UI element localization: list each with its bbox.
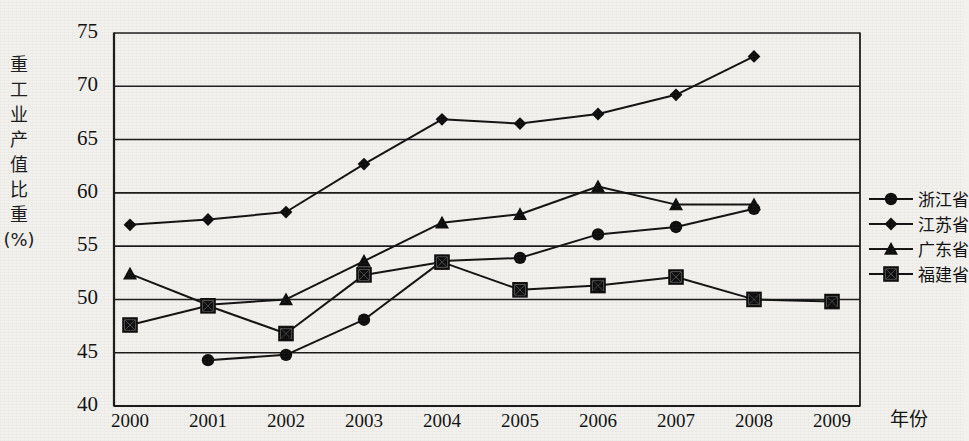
data-point-triangle-icon: [591, 179, 605, 192]
data-point-circle-icon: [592, 228, 604, 240]
data-point-diamond-icon: [202, 213, 215, 226]
legend: 浙江省 江苏省 广东省 福建省: [868, 186, 964, 286]
y-tick-label: 60: [52, 179, 98, 204]
y-tick-label: 55: [52, 232, 98, 257]
data-point-triangle-icon: [357, 254, 371, 267]
y-tick-label: 65: [52, 126, 98, 151]
x-tick-label: 2003: [329, 410, 399, 432]
x-tick-label: 2007: [641, 410, 711, 432]
y-tick-label: 70: [52, 72, 98, 97]
legend-item-jiangsu: 江苏省: [868, 211, 964, 236]
data-point-diamond-icon: [436, 113, 449, 126]
legend-marker-crossed-square-icon: [868, 264, 914, 284]
data-point-diamond-icon: [748, 50, 761, 63]
data-point-crossed-square-icon: [825, 295, 838, 308]
y-tick-label: 50: [52, 285, 98, 310]
y-tick-label: 40: [52, 392, 98, 417]
legend-label: 江苏省: [914, 211, 969, 236]
legend-marker-diamond-icon: [868, 214, 914, 234]
data-point-crossed-square-icon: [201, 299, 214, 312]
y-tick-label: 45: [52, 339, 98, 364]
x-tick-label: 2001: [173, 410, 243, 432]
data-point-crossed-square-icon: [513, 283, 526, 296]
x-tick-label: 2000: [95, 410, 165, 432]
legend-marker-circle-icon: [868, 189, 914, 209]
legend-item-fujian: 福建省: [868, 261, 964, 286]
data-point-circle-icon: [202, 354, 214, 366]
data-point-crossed-square-icon: [591, 279, 604, 292]
legend-item-guangdong: 广东省: [868, 236, 964, 261]
x-axis-title: 年份: [890, 404, 928, 431]
series-3: [123, 179, 761, 310]
data-point-circle-icon: [670, 221, 682, 233]
series-line: [130, 56, 754, 224]
data-point-crossed-square-icon: [884, 267, 897, 280]
data-point-circle-icon: [885, 192, 897, 204]
data-point-diamond-icon: [885, 217, 898, 230]
data-point-crossed-square-icon: [669, 270, 682, 283]
series-line: [130, 262, 832, 333]
data-point-triangle-icon: [513, 207, 527, 220]
series-4: [123, 256, 838, 341]
data-point-crossed-square-icon: [123, 318, 136, 331]
legend-label: 广东省: [914, 236, 969, 261]
x-tick-label: 2002: [251, 410, 321, 432]
x-tick-label: 2005: [485, 410, 555, 432]
data-point-crossed-square-icon: [357, 268, 370, 281]
data-point-circle-icon: [358, 313, 370, 325]
legend-marker-triangle-icon: [868, 239, 914, 259]
legend-label: 浙江省: [914, 186, 969, 211]
x-tick-label: 2004: [407, 410, 477, 432]
data-point-triangle-icon: [123, 267, 137, 280]
data-point-diamond-icon: [280, 206, 293, 219]
data-point-circle-icon: [514, 252, 526, 264]
data-point-diamond-icon: [670, 88, 683, 101]
x-tick-label: 2006: [563, 410, 633, 432]
x-tick-label: 2009: [797, 410, 867, 432]
data-point-crossed-square-icon: [747, 293, 760, 306]
data-point-diamond-icon: [592, 108, 605, 121]
data-point-crossed-square-icon: [435, 256, 448, 269]
series-2: [124, 50, 761, 231]
legend-item-zhejiang: 浙江省: [868, 186, 964, 211]
legend-label: 福建省: [914, 261, 969, 286]
data-point-crossed-square-icon: [279, 327, 292, 340]
data-point-diamond-icon: [124, 218, 137, 231]
data-point-circle-icon: [280, 349, 292, 361]
x-tick-label: 2008: [719, 410, 789, 432]
y-tick-label: 75: [52, 19, 98, 44]
data-point-diamond-icon: [514, 117, 527, 130]
data-point-diamond-icon: [358, 158, 371, 171]
